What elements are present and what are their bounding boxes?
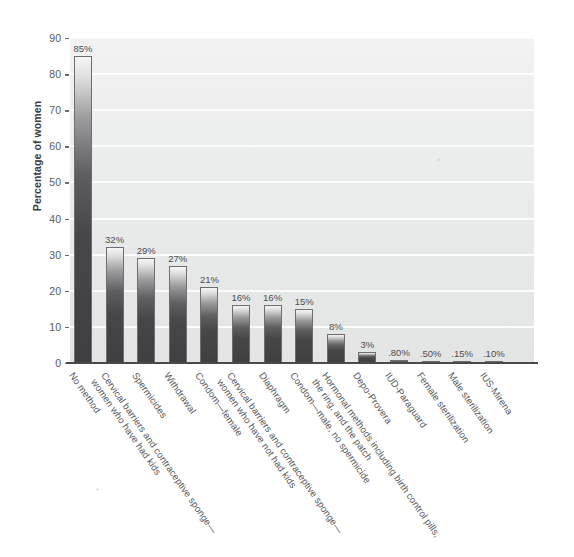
bar-value-label: .10% <box>472 349 516 359</box>
gridline <box>70 145 534 147</box>
bar <box>232 305 250 363</box>
bar <box>106 247 124 363</box>
scan-dot-icon <box>437 158 440 161</box>
y-tick-label: 40 <box>33 214 61 225</box>
gridline <box>70 37 534 39</box>
bar <box>74 56 92 363</box>
y-tick-mark <box>65 219 69 220</box>
y-tick-label: 70 <box>33 105 61 116</box>
bar-value-label: 8% <box>314 322 358 332</box>
bar <box>169 266 187 364</box>
bar-value-label: 85% <box>61 44 105 54</box>
gridline <box>70 109 534 111</box>
y-tick-mark <box>65 255 69 256</box>
y-tick-mark <box>65 74 69 75</box>
plot-area <box>70 38 534 363</box>
y-tick-mark <box>65 146 69 147</box>
y-tick-mark <box>65 291 69 292</box>
y-tick-label: 80 <box>33 69 61 80</box>
y-tick-label: 20 <box>33 286 61 297</box>
x-axis-line <box>66 362 538 364</box>
category-label-line1: Hormonal methods including birth control… <box>320 370 443 539</box>
bar-value-label: 15% <box>282 297 326 307</box>
bar <box>200 287 218 363</box>
y-tick-label: 90 <box>33 33 61 44</box>
bar <box>137 258 155 363</box>
bar-value-label: 32% <box>93 235 137 245</box>
gridline <box>70 73 534 75</box>
y-tick-mark <box>65 182 69 183</box>
y-tick-label: 10 <box>33 322 61 333</box>
gridline <box>70 218 534 220</box>
bar <box>327 334 345 363</box>
y-tick-mark <box>65 110 69 111</box>
bar <box>295 309 313 363</box>
y-tick-label: 0 <box>33 358 61 369</box>
y-tick-label: 30 <box>33 250 61 261</box>
y-tick-label: 50 <box>33 177 61 188</box>
bar-value-label: 21% <box>187 275 231 285</box>
bar-value-label: 27% <box>156 254 200 264</box>
bar <box>264 305 282 363</box>
y-tick-mark <box>65 38 69 39</box>
bar-chart-figure: Percentage of women 0102030405060708090 … <box>0 0 574 557</box>
y-tick-label: 60 <box>33 141 61 152</box>
category-label-line1: Cervical barriers and contraceptive spon… <box>99 370 219 535</box>
y-tick-mark <box>65 327 69 328</box>
scan-speck-icon: * <box>96 487 100 491</box>
gridline <box>70 181 534 183</box>
